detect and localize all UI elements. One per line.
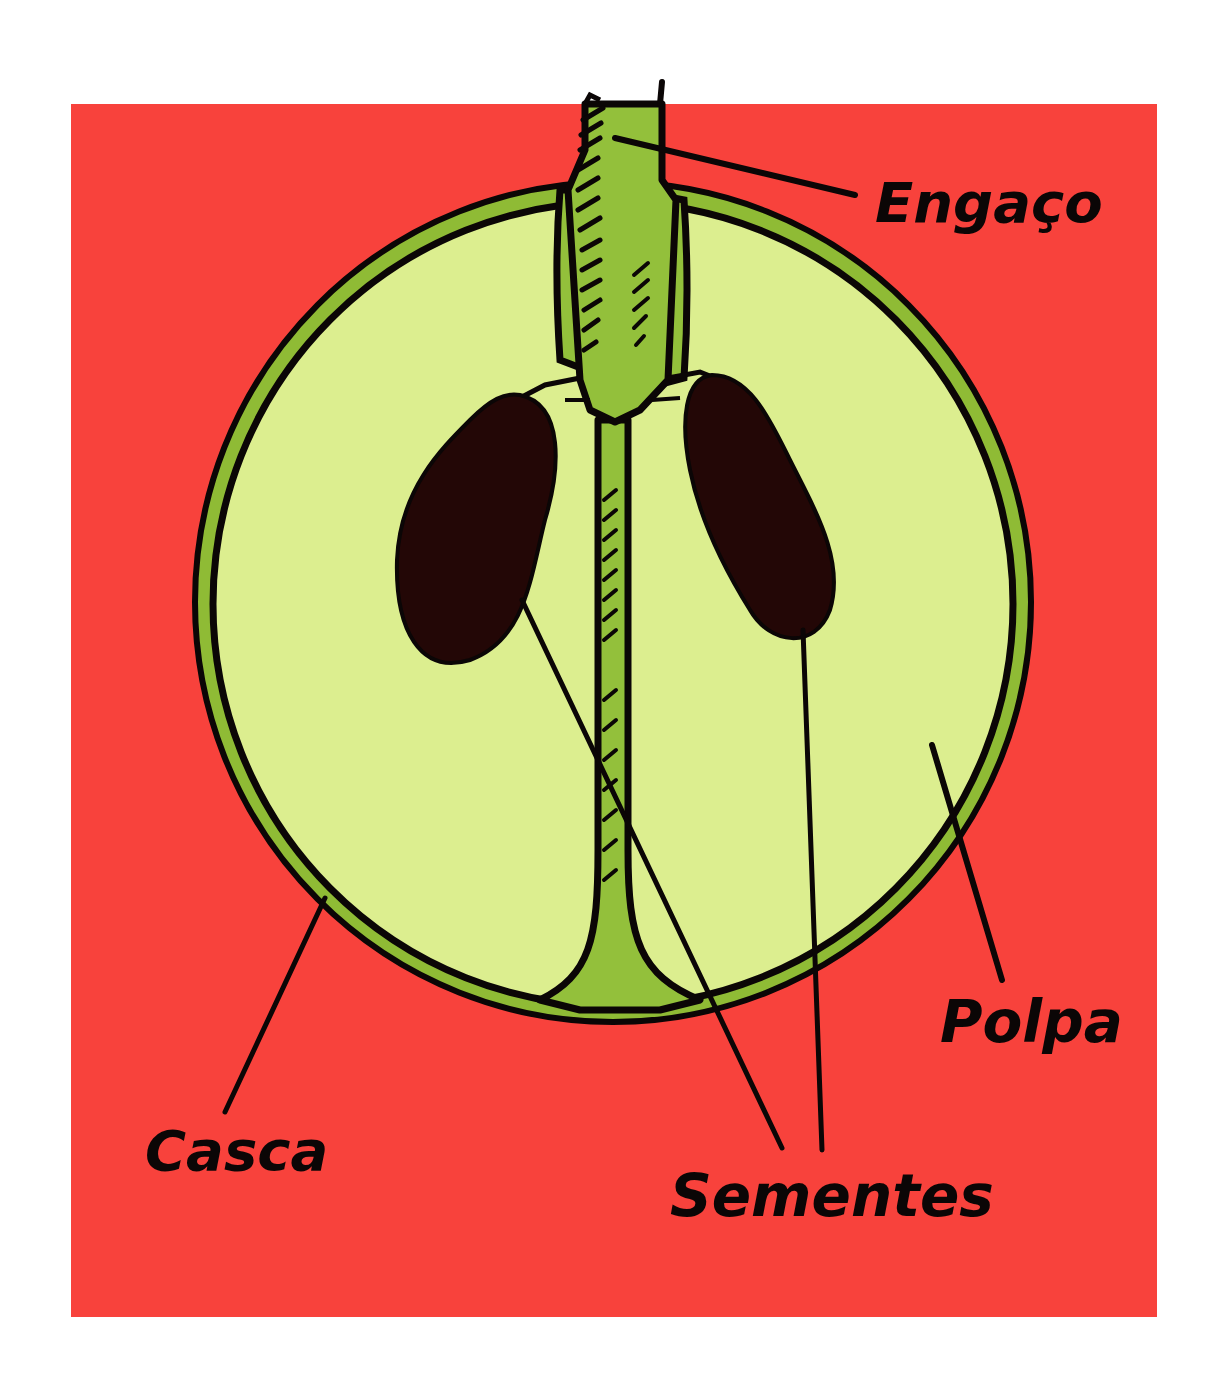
label-stem: Engaço (875, 170, 1103, 235)
label-pulp: Polpa (940, 988, 1123, 1056)
label-seeds: Sementes (670, 1162, 994, 1230)
grape-diagram: Engaço Casca Sementes Polpa (0, 0, 1231, 1387)
label-skin: Casca (145, 1118, 328, 1183)
